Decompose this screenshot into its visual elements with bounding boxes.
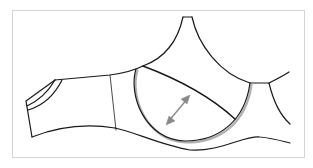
side-seam — [110, 75, 116, 130]
bra-pattern-diagram — [0, 0, 313, 168]
cup — [134, 66, 251, 143]
double-arrow-icon — [166, 95, 190, 125]
back-band — [26, 66, 143, 137]
center-gore — [250, 72, 290, 124]
